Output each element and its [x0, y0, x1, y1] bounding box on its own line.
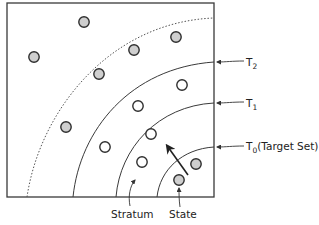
state-node-filled — [29, 52, 39, 62]
label-t2: T2 — [245, 56, 257, 71]
state-node-empty — [137, 157, 147, 167]
t2-leader-line — [217, 61, 244, 62]
t0-leader-line — [217, 146, 244, 147]
state-node-empty — [133, 101, 143, 111]
state-node-filled — [171, 32, 181, 42]
label-stratum: Stratum — [111, 208, 154, 220]
state-node-empty — [146, 129, 156, 139]
state-node-filled — [61, 122, 71, 132]
state-node-filled — [79, 17, 89, 27]
state-node-filled — [191, 159, 201, 169]
state-node-filled — [129, 45, 139, 55]
label-t1: T1 — [245, 97, 257, 112]
label-state: State — [169, 208, 197, 220]
t1-leader-line — [217, 102, 244, 103]
strata-diagram: T2 T1 T0(Target Set) Stratum State — [0, 0, 319, 225]
label-t0-target-set: T0(Target Set) — [245, 140, 318, 155]
state-node-filled — [174, 175, 184, 185]
state-node-empty — [100, 142, 110, 152]
state-node-filled — [94, 69, 104, 79]
state-node-empty — [177, 80, 187, 90]
